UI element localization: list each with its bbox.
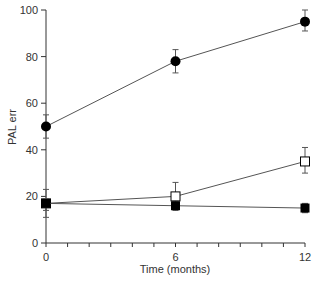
series-line: [46, 22, 305, 127]
axes: 0204060801000612: [20, 4, 311, 263]
data-point-circle: [300, 17, 310, 27]
data-point-square-filled: [42, 199, 51, 208]
data-point-circle: [41, 122, 51, 132]
x-tick-label: 6: [172, 251, 178, 263]
y-axis-label: PAL err: [6, 109, 18, 145]
data-point-square-filled: [171, 201, 180, 210]
line-chart: 0204060801000612 Time (months) PAL err: [0, 0, 318, 285]
y-tick-label: 100: [20, 4, 38, 16]
y-tick-label: 0: [32, 237, 38, 249]
x-tick-label: 0: [43, 251, 49, 263]
data-point-square-filled: [301, 204, 310, 213]
series-layer: [41, 10, 310, 217]
y-tick-label: 60: [26, 97, 38, 109]
x-tick-label: 12: [299, 251, 311, 263]
x-axis-label: Time (months): [140, 263, 211, 275]
data-point-square-open: [301, 157, 310, 166]
y-tick-label: 20: [26, 190, 38, 202]
series-filled-square: [42, 199, 310, 213]
data-point-circle: [171, 56, 181, 66]
series-filled-circle: [41, 10, 310, 138]
data-point-square-open: [171, 192, 180, 201]
y-tick-label: 40: [26, 144, 38, 156]
y-tick-label: 80: [26, 51, 38, 63]
